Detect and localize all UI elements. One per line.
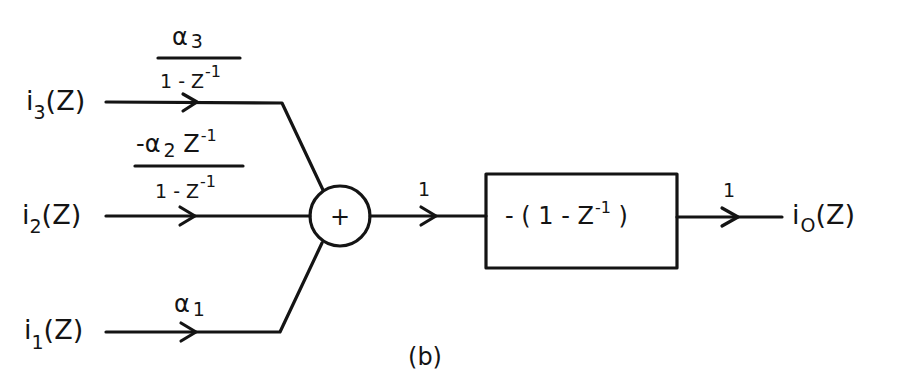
output-label: iO(Z) [792, 199, 855, 236]
summer-to-block: 1 [370, 178, 486, 225]
input-i3-label: i3(Z) [26, 85, 85, 123]
gain-i2: -α2 Z-1 1 - Z-1 [135, 126, 243, 202]
input-i1: i1(Z) α1 [24, 243, 322, 353]
input-i2-label: i2(Z) [22, 199, 81, 237]
input-i1-signal-line [106, 243, 322, 332]
gain-i1: α1 [174, 290, 205, 320]
gain-i3: α3 1 - Z-1 [158, 23, 240, 92]
block-diagram: i3(Z) α3 1 - Z-1 i2(Z) -α2 Z-1 1 - Z-1 i… [0, 0, 897, 391]
output: 1 iO(Z) [677, 179, 855, 236]
output-gain: 1 [723, 179, 735, 201]
summing-junction: + [310, 186, 370, 246]
gain-i2-numerator: -α2 Z-1 [136, 126, 217, 161]
plus-icon: + [330, 203, 350, 231]
figure-caption: (b) [408, 343, 442, 371]
gain-i3-denominator: 1 - Z-1 [160, 62, 221, 92]
gain-i3-numerator: α3 [172, 23, 203, 52]
transfer-block: - ( 1 - Z-1 ) [486, 174, 677, 268]
summer-output-gain: 1 [418, 178, 430, 200]
input-i2: i2(Z) -α2 Z-1 1 - Z-1 [22, 126, 310, 237]
block-transfer-function: - ( 1 - Z-1 ) [505, 198, 628, 230]
gain-i2-denominator: 1 - Z-1 [155, 172, 216, 202]
input-i1-label: i1(Z) [24, 314, 83, 353]
